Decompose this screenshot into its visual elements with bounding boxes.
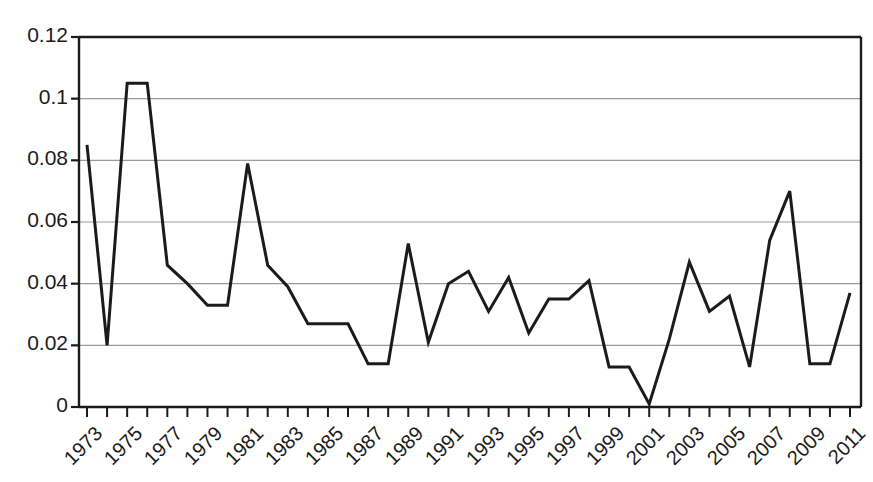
y-axis-tick-label: 0 [6, 393, 68, 417]
y-axis-tick-label: 0.06 [6, 208, 68, 232]
y-axis-tick-label: 0.12 [6, 23, 68, 47]
chart-plot-area [0, 0, 873, 482]
line-chart: 0.120.10.080.060.040.020 197319751977197… [0, 0, 873, 482]
y-axis-tick-label: 0.04 [6, 270, 68, 294]
y-axis-tick-label: 0.08 [6, 146, 68, 170]
y-axis-tick-label: 0.02 [6, 331, 68, 355]
gridlines [79, 37, 861, 345]
y-axis-tick-label: 0.1 [6, 85, 68, 109]
data-series-line [87, 83, 850, 404]
x-axis-ticks [87, 407, 850, 417]
